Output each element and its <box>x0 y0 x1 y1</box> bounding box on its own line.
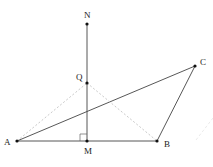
faint-line <box>196 118 213 140</box>
label-Q: Q <box>76 72 83 82</box>
point-A <box>15 139 18 142</box>
point-C <box>193 64 196 67</box>
segment-QB <box>87 83 157 141</box>
point-B <box>155 139 158 142</box>
geometry-diagram: N Q A M B C <box>0 0 213 167</box>
segment-AQ <box>17 83 87 141</box>
label-C: C <box>200 57 206 67</box>
point-M <box>85 139 88 142</box>
label-A: A <box>4 137 11 147</box>
segment-AC <box>17 66 195 141</box>
point-N <box>85 22 88 25</box>
label-B: B <box>164 139 170 149</box>
label-M: M <box>84 146 92 156</box>
diagram-canvas: N Q A M B C <box>0 0 213 167</box>
label-N: N <box>84 10 91 20</box>
point-Q <box>85 81 88 84</box>
segment-BC <box>157 66 195 141</box>
